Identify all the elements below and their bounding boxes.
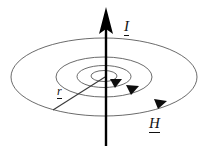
- field-line-inner-ellipse: [77, 66, 131, 88]
- diagram-canvas: [0, 0, 211, 149]
- current-label: I: [124, 19, 129, 36]
- field-direction-arrow-outer: [154, 99, 167, 109]
- physics-diagram: I H r: [0, 0, 211, 149]
- radius-label: r: [57, 85, 62, 99]
- magnetic-field-label: H: [149, 116, 160, 133]
